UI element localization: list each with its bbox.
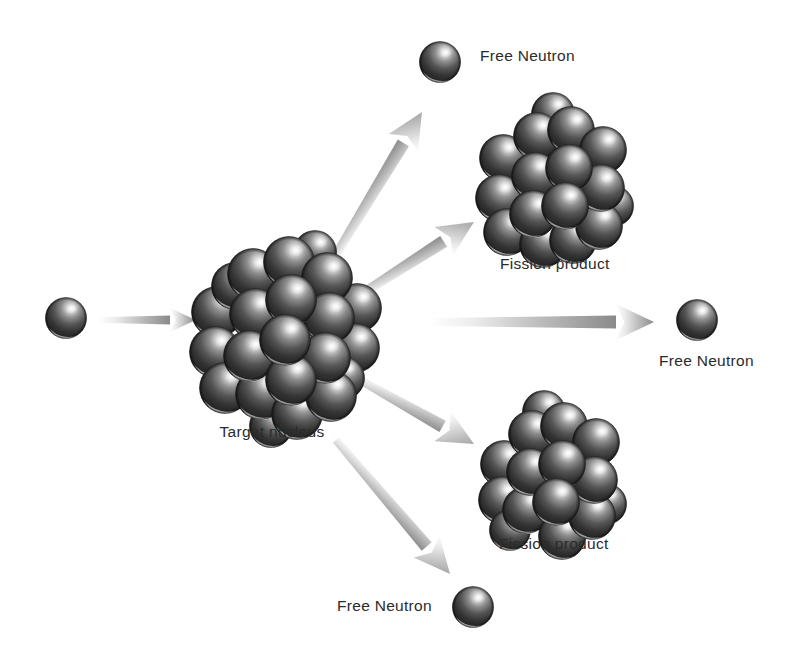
label-free-neutron-right: Free Neutron <box>659 353 754 369</box>
label-target-nucleus: Target nucleus <box>219 424 324 440</box>
label-free-neutron-top: Free Neutron <box>480 48 575 64</box>
fission-diagram-svg <box>0 0 791 652</box>
arrow-to-fission-product-bottom <box>352 365 483 459</box>
target-nucleus <box>190 230 382 448</box>
fission-product-top-nucleon-15 <box>541 182 588 230</box>
incoming-neutron <box>45 297 86 339</box>
free-neutrons-layer <box>45 41 717 628</box>
free-neutron-right-sphere <box>676 299 717 341</box>
arrow-incoming <box>100 308 196 332</box>
arrow-to-free-neutron-right <box>434 304 654 340</box>
label-free-neutron-bottom: Free Neutron <box>337 598 432 614</box>
fission-product-top <box>475 92 633 268</box>
target-nucleus-nucleon-21 <box>260 315 311 366</box>
free-neutron-right <box>676 299 717 341</box>
label-fission-product-bottom: Fission product <box>499 536 609 552</box>
fission-diagram-canvas: Target nucleus Free Neutron Fission prod… <box>0 0 791 652</box>
free-neutron-bottom-sphere <box>452 586 493 628</box>
label-fission-product-top: Fission product <box>500 256 610 272</box>
fission-product-bottom-nucleon-14 <box>532 478 579 526</box>
free-neutron-bottom <box>452 586 493 628</box>
free-neutron-top <box>419 41 460 83</box>
incoming-neutron-sphere <box>45 297 86 339</box>
free-neutron-top-sphere <box>419 41 460 83</box>
arrow-to-free-neutron-bottom <box>323 429 463 585</box>
